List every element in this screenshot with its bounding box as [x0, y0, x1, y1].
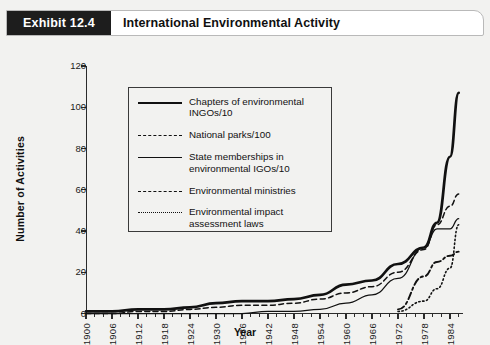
- legend-swatch-solid-thick-icon: [138, 96, 182, 108]
- legend-item: Environmental impact assessment laws: [138, 206, 283, 229]
- legend-item: Chapters of environmental INGOs/10: [138, 96, 304, 119]
- legend-label: Environmental impact assessment laws: [189, 206, 283, 229]
- exhibit-header: Exhibit 12.4 International Environmental…: [6, 10, 484, 36]
- series-line-3: [86, 219, 459, 314]
- legend-label: State memberships in environmental IGOs/…: [189, 151, 290, 174]
- legend-item: State memberships in environmental IGOs/…: [138, 151, 290, 174]
- legend-label: Chapters of environmental INGOs/10: [189, 96, 304, 119]
- legend-item: Environmental ministries: [138, 185, 296, 197]
- legend-swatch-solid-thin-icon: [138, 151, 182, 163]
- chart-legend: Chapters of environmental INGOs/10Nation…: [128, 87, 332, 232]
- exhibit-number-tag: Exhibit 12.4: [7, 11, 111, 35]
- exhibit-title: International Environmental Activity: [123, 11, 340, 35]
- legend-label: National parks/100: [189, 129, 271, 140]
- legend-swatch-dotted-icon: [138, 206, 182, 218]
- legend-item: National parks/100: [138, 129, 271, 141]
- legend-swatch-dashed-icon: [138, 129, 182, 141]
- legend-label: Environmental ministries: [189, 185, 296, 196]
- legend-swatch-dash-dot-icon: [138, 185, 182, 197]
- line-chart: 020406080100120 190019061912191819241930…: [0, 40, 490, 341]
